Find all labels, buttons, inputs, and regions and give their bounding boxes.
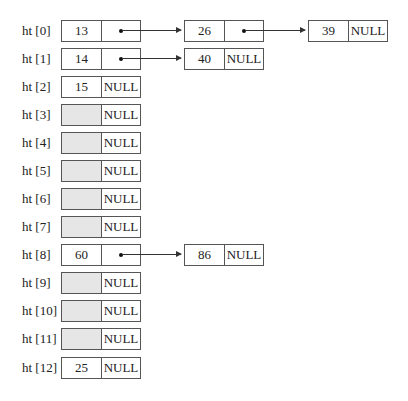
- chain-node: 40NULL: [184, 48, 264, 70]
- bucket-index-label: ht [5]: [22, 163, 51, 179]
- key-cell: 14: [62, 49, 102, 69]
- hash-table-row: ht [6]NULL: [0, 188, 408, 210]
- null-pointer-cell: NULL: [349, 21, 387, 41]
- null-pointer-cell: NULL: [102, 77, 140, 97]
- null-pointer-cell: NULL: [102, 358, 140, 378]
- bucket-index-label: ht [0]: [22, 23, 51, 39]
- null-pointer-cell: NULL: [102, 133, 140, 153]
- bucket-head-node: 13: [61, 20, 141, 42]
- hash-table-row: ht [11]NULL: [0, 328, 408, 350]
- empty-key-cell: [62, 217, 102, 237]
- bucket-head-node: NULL: [61, 132, 141, 154]
- hash-table-row: ht [12]25NULL: [0, 357, 408, 379]
- bucket-index-label: ht [7]: [22, 219, 51, 235]
- hash-table-row: ht [2]15NULL: [0, 76, 408, 98]
- bucket-head-node: 25NULL: [61, 357, 141, 379]
- hash-table-row: ht [7]NULL: [0, 216, 408, 238]
- null-pointer-cell: NULL: [225, 49, 263, 69]
- bucket-head-node: NULL: [61, 272, 141, 294]
- pointer-arrow-icon: [123, 58, 181, 59]
- bucket-index-label: ht [11]: [22, 331, 57, 347]
- null-pointer-cell: NULL: [102, 105, 140, 125]
- key-cell: 25: [62, 358, 102, 378]
- bucket-index-label: ht [12]: [22, 360, 57, 376]
- bucket-head-node: NULL: [61, 328, 141, 350]
- null-pointer-cell: NULL: [225, 245, 263, 265]
- key-cell: 60: [62, 245, 102, 265]
- pointer-arrow-icon: [246, 30, 305, 31]
- chain-node: 86NULL: [184, 244, 264, 266]
- empty-key-cell: [62, 301, 102, 321]
- hash-table-row: ht [10]NULL: [0, 300, 408, 322]
- chain-node: 39NULL: [308, 20, 388, 42]
- pointer-arrow-icon: [123, 254, 181, 255]
- bucket-index-label: ht [6]: [22, 191, 51, 207]
- bucket-head-node: 14: [61, 48, 141, 70]
- bucket-index-label: ht [4]: [22, 135, 51, 151]
- empty-key-cell: [62, 105, 102, 125]
- bucket-index-label: ht [9]: [22, 275, 51, 291]
- hash-table-row: ht [1]1440NULL: [0, 48, 408, 70]
- bucket-index-label: ht [10]: [22, 303, 57, 319]
- key-cell: 86: [185, 245, 225, 265]
- pointer-cell: [102, 21, 140, 41]
- empty-key-cell: [62, 189, 102, 209]
- pointer-cell: [225, 21, 263, 41]
- pointer-cell: [102, 49, 140, 69]
- hash-table-row: ht [3]NULL: [0, 104, 408, 126]
- bucket-head-node: NULL: [61, 300, 141, 322]
- empty-key-cell: [62, 133, 102, 153]
- key-cell: 39: [309, 21, 349, 41]
- null-pointer-cell: NULL: [102, 217, 140, 237]
- null-pointer-cell: NULL: [102, 273, 140, 293]
- bucket-head-node: 15NULL: [61, 76, 141, 98]
- null-pointer-cell: NULL: [102, 161, 140, 181]
- bucket-index-label: ht [3]: [22, 107, 51, 123]
- empty-key-cell: [62, 161, 102, 181]
- bucket-head-node: NULL: [61, 160, 141, 182]
- bucket-head-node: NULL: [61, 188, 141, 210]
- pointer-arrow-icon: [123, 30, 181, 31]
- key-cell: 26: [185, 21, 225, 41]
- bucket-head-node: NULL: [61, 104, 141, 126]
- key-cell: 15: [62, 77, 102, 97]
- hash-table-row: ht [8]6086NULL: [0, 244, 408, 266]
- pointer-cell: [102, 245, 140, 265]
- bucket-head-node: 60: [61, 244, 141, 266]
- null-pointer-cell: NULL: [102, 301, 140, 321]
- hash-table-row: ht [5]NULL: [0, 160, 408, 182]
- null-pointer-cell: NULL: [102, 329, 140, 349]
- chain-node: 26: [184, 20, 264, 42]
- key-cell: 40: [185, 49, 225, 69]
- bucket-index-label: ht [8]: [22, 247, 51, 263]
- bucket-index-label: ht [1]: [22, 51, 51, 67]
- hash-table-row: ht [9]NULL: [0, 272, 408, 294]
- null-pointer-cell: NULL: [102, 189, 140, 209]
- empty-key-cell: [62, 273, 102, 293]
- hash-table-row: ht [0]132639NULL: [0, 20, 408, 42]
- bucket-index-label: ht [2]: [22, 79, 51, 95]
- hash-table-row: ht [4]NULL: [0, 132, 408, 154]
- empty-key-cell: [62, 329, 102, 349]
- bucket-head-node: NULL: [61, 216, 141, 238]
- key-cell: 13: [62, 21, 102, 41]
